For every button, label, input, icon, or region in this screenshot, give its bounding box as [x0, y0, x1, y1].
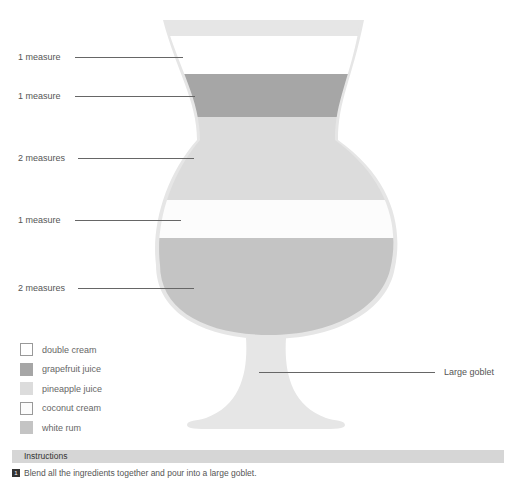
glass-type-label: Large goblet — [444, 367, 494, 377]
layer-label-4: 1 measure — [18, 215, 61, 225]
leader-line-3 — [78, 158, 194, 159]
swatch-pineapple-juice — [20, 382, 33, 395]
legend-label: grapefruit juice — [42, 364, 101, 374]
leader-line-2 — [75, 96, 195, 97]
step-number-badge: 1 — [12, 469, 20, 477]
swatch-grapefruit-juice — [20, 363, 33, 376]
swatch-white-rum — [20, 421, 33, 434]
glass-stem — [187, 338, 345, 429]
legend-label: white rum — [42, 423, 81, 433]
legend: double cream grapefruit juice pineapple … — [20, 340, 102, 438]
swatch-coconut-cream — [20, 402, 33, 415]
leader-line-glass — [259, 372, 435, 373]
legend-item-white-rum: white rum — [20, 418, 102, 438]
instruction-step: 1 Blend all the ingredients together and… — [12, 468, 257, 478]
legend-label: coconut cream — [42, 403, 101, 413]
layer-label-3: 2 measures — [18, 153, 65, 163]
step-text: Blend all the ingredients together and p… — [24, 468, 257, 478]
legend-item-double-cream: double cream — [20, 340, 102, 360]
instructions-header: Instructions — [12, 450, 504, 463]
layer-label-2: 1 measure — [18, 91, 61, 101]
layer-label-1: 1 measure — [18, 52, 61, 62]
leader-line-4 — [75, 220, 181, 221]
leader-line-5 — [78, 288, 194, 289]
legend-item-pineapple-juice: pineapple juice — [20, 379, 102, 399]
legend-item-grapefruit-juice: grapefruit juice — [20, 360, 102, 380]
legend-label: double cream — [42, 345, 97, 355]
layer-label-5: 2 measures — [18, 283, 65, 293]
legend-item-coconut-cream: coconut cream — [20, 399, 102, 419]
leader-line-1 — [75, 57, 183, 58]
swatch-double-cream — [20, 343, 33, 356]
legend-label: pineapple juice — [42, 384, 102, 394]
